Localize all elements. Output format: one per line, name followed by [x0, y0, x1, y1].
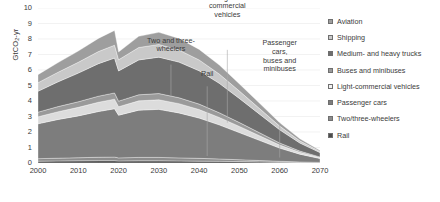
legend-item[interactable]: Buses and minibuses [328, 62, 440, 78]
legend-item[interactable]: Aviation [328, 13, 440, 29]
x-axis-tick: 2020 [99, 166, 139, 175]
legend-item[interactable]: Medium- and heavy trucks [328, 46, 440, 62]
x-axis-tick: 2030 [139, 166, 179, 175]
stacked-area-svg [38, 8, 320, 163]
chart-figure: GtCO2-yr 012345678910 200020102020203020… [0, 0, 440, 202]
legend-swatch-icon [328, 100, 333, 105]
legend-swatch-icon [328, 35, 333, 40]
annotation-label: Two and three- wheelers [138, 37, 204, 54]
legend-item-label: Rail [337, 131, 349, 140]
annotation-label: Passenger cars, buses and minibuses [247, 39, 313, 73]
legend-item[interactable]: Passenger cars [328, 94, 440, 110]
legend-item[interactable]: Rail [328, 127, 440, 143]
legend-swatch-icon [328, 84, 333, 89]
x-axis-tick: 2000 [18, 166, 58, 175]
y-axis-tick: 3 [8, 113, 32, 121]
legend-item-label: Two/three-wheelers [337, 114, 400, 123]
legend-swatch-icon [328, 51, 333, 56]
legend-item-label: Medium- and heavy trucks [337, 49, 421, 58]
x-axis-tick: 2060 [260, 166, 300, 175]
legend-item-label: Aviation [337, 17, 362, 26]
legend-item-label: Light-commercial vehicles [337, 82, 420, 91]
y-axis-tick: 4 [8, 97, 32, 105]
legend-swatch-icon [328, 133, 333, 138]
y-axis-tick: 5 [8, 82, 32, 90]
y-axis-tick: 7 [8, 51, 32, 59]
x-axis-tick: 2070 [300, 166, 340, 175]
y-axis-tick: 6 [8, 66, 32, 74]
y-axis-tick: 8 [8, 35, 32, 43]
plot-area [38, 8, 320, 163]
x-axis-tick: 2050 [219, 166, 259, 175]
legend-item[interactable]: Shipping [328, 29, 440, 45]
x-axis-tick: 2040 [179, 166, 219, 175]
legend-item[interactable]: Two/three-wheelers [328, 111, 440, 127]
y-axis-tick: 10 [8, 4, 32, 12]
legend-item-label: Shipping [337, 33, 365, 42]
legend-swatch-icon [328, 116, 333, 121]
y-axis-tick: 1 [8, 144, 32, 152]
annotation-label: Rail [174, 70, 240, 79]
y-axis-tick: 9 [8, 20, 32, 28]
legend-swatch-icon [328, 19, 333, 24]
legend-item-label: Passenger cars [337, 98, 387, 107]
legend-swatch-icon [328, 68, 333, 73]
chart-legend: AviationShippingMedium- and heavy trucks… [328, 13, 440, 143]
x-axis-tick: 2010 [58, 166, 98, 175]
legend-item-label: Buses and minibuses [337, 66, 405, 75]
annotation-label: Light- commercial vehicles [194, 0, 260, 20]
legend-item[interactable]: Light-commercial vehicles [328, 78, 440, 94]
y-axis-tick: 2 [8, 128, 32, 136]
